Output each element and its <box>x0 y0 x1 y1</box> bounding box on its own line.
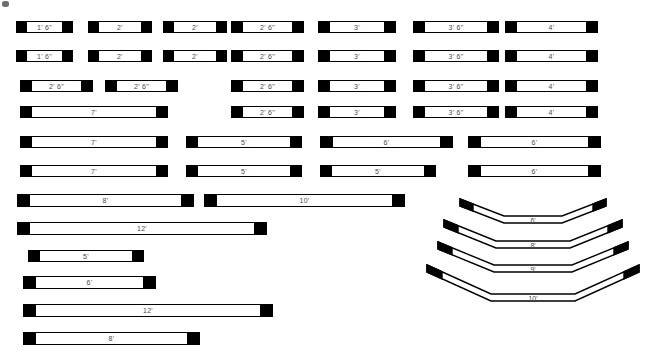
bar-length-label: 5' <box>241 167 247 174</box>
bar-body: 6' <box>333 137 440 147</box>
bar-length-label: 12' <box>143 307 153 314</box>
dimension-bar: 7' <box>20 106 168 118</box>
bar-length-label: 3' <box>354 82 360 89</box>
bar-end-cap-right <box>586 107 597 117</box>
bar-length-label: 3' 6" <box>448 52 463 59</box>
bar-body: 3' 6" <box>425 51 487 61</box>
bar-end-cap-left <box>21 81 32 91</box>
bar-end-cap-left <box>24 333 36 344</box>
bent-bar-length-label: 10' <box>528 294 537 301</box>
bar-body: 6' <box>481 137 588 147</box>
bar-end-cap-left <box>106 81 117 91</box>
bar-body: 3' 6" <box>425 22 487 32</box>
dimension-bar: 4' <box>505 106 598 118</box>
bar-body: 5' <box>40 251 132 261</box>
bar-end-cap-left <box>506 22 517 32</box>
bar-end-cap-left <box>232 107 243 117</box>
bar-body: 1' 6" <box>27 22 62 32</box>
bar-end-cap-right <box>143 277 155 288</box>
dimension-bar: 4' <box>505 80 598 92</box>
bar-end-cap-right <box>292 22 303 32</box>
bar-length-label: 2' <box>117 23 123 30</box>
bar-end-cap-right <box>62 22 72 32</box>
bent-bar-end-cap-right <box>614 242 628 255</box>
dimension-bar: 2' <box>163 21 227 33</box>
bar-end-cap-left <box>469 166 481 176</box>
bar-length-label: 7' <box>91 108 97 115</box>
dimension-bar: 3' <box>318 80 396 92</box>
bar-body: 3' 6" <box>425 107 487 117</box>
bar-end-cap-right <box>588 137 600 147</box>
bar-end-cap-right <box>260 305 272 316</box>
bar-body: 12' <box>30 223 254 234</box>
bar-body: 6' <box>36 277 143 288</box>
bent-bar-end-cap-left <box>444 220 458 233</box>
bar-body: 4' <box>517 81 586 91</box>
bar-body: 1' 6" <box>27 51 62 61</box>
bar-end-cap-left <box>232 81 243 91</box>
dimension-bar: 3' <box>318 21 396 33</box>
bar-end-cap-right <box>141 22 151 32</box>
dimension-bar: 3' 6" <box>413 21 499 33</box>
bar-end-cap-right <box>292 51 303 61</box>
dimension-bar: 3' 6" <box>413 80 499 92</box>
bar-end-cap-left <box>17 22 27 32</box>
bar-body: 2' 6" <box>32 81 81 91</box>
bar-length-label: 2' <box>192 52 198 59</box>
dimension-bar: 1' 6" <box>16 50 73 62</box>
bar-length-label: 2' <box>117 52 123 59</box>
dimension-bar: 2' 6" <box>231 106 304 118</box>
dimension-bar: 8' <box>17 194 194 207</box>
bar-end-cap-left <box>21 137 32 147</box>
bent-bar-end-cap-right <box>624 265 639 279</box>
bar-end-cap-right <box>141 51 151 61</box>
bar-end-cap-left <box>414 22 425 32</box>
bar-body: 2' <box>99 22 141 32</box>
bar-length-label: 4' <box>549 82 555 89</box>
bar-body: 2' 6" <box>243 107 292 117</box>
bar-body: 6' <box>481 166 588 176</box>
bar-length-label: 2' 6" <box>134 82 149 89</box>
dimension-bar: 12' <box>17 222 267 235</box>
scan-speck <box>2 1 9 7</box>
bar-body: 2' 6" <box>243 81 292 91</box>
bar-body: 5' <box>198 137 290 147</box>
dimension-bar: 5' <box>320 165 436 177</box>
bar-length-label: 5' <box>375 167 381 174</box>
bar-end-cap-right <box>166 81 177 91</box>
bar-body: 12' <box>36 305 260 316</box>
bar-end-cap-left <box>164 51 174 61</box>
bar-end-cap-left <box>469 137 481 147</box>
bar-end-cap-left <box>18 195 30 206</box>
bar-end-cap-right <box>181 195 193 206</box>
bar-end-cap-right <box>254 223 266 234</box>
dimension-bar: 6' <box>320 136 453 148</box>
bent-bar-end-cap-left <box>427 265 442 279</box>
bar-body: 2' <box>174 22 216 32</box>
dimension-bar: 4' <box>505 50 598 62</box>
bar-end-cap-right <box>487 51 498 61</box>
bar-body: 5' <box>332 166 424 176</box>
bar-body: 4' <box>517 51 586 61</box>
bar-end-cap-left <box>319 51 330 61</box>
dimension-bar: 1' 6" <box>16 21 73 33</box>
bar-end-cap-left <box>164 22 174 32</box>
bar-end-cap-left <box>187 137 198 147</box>
bar-length-label: 6' <box>87 279 93 286</box>
bar-length-label: 2' <box>192 23 198 30</box>
bar-body: 2' 6" <box>243 51 292 61</box>
bar-length-label: 10' <box>299 197 309 204</box>
bar-body: 7' <box>32 166 156 176</box>
bar-end-cap-left <box>89 51 99 61</box>
bar-end-cap-right <box>384 107 395 117</box>
bar-length-label: 3' 6" <box>448 23 463 30</box>
bar-length-label: 1' 6" <box>37 23 52 30</box>
bar-length-label: 5' <box>83 252 89 259</box>
bar-end-cap-left <box>24 305 36 316</box>
bar-end-cap-right <box>487 107 498 117</box>
dimension-bar: 3' 6" <box>413 50 499 62</box>
dimension-bar: 12' <box>23 304 273 317</box>
bent-bar-end-cap-right <box>608 220 622 233</box>
bar-body: 8' <box>36 333 187 344</box>
bar-body: 7' <box>32 107 156 117</box>
